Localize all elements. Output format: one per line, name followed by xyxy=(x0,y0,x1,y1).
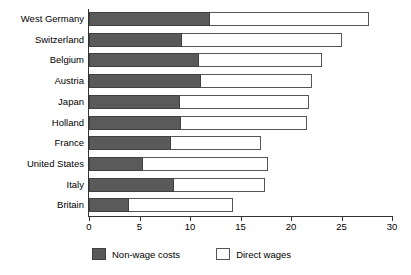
stacked-bar xyxy=(89,53,322,67)
x-tick-label: 15 xyxy=(235,222,246,232)
bar-segment-direct-wages xyxy=(201,74,312,88)
bar-segment-non-wage-costs xyxy=(89,12,210,26)
legend-label: Direct wages xyxy=(236,249,291,260)
bar-segment-direct-wages xyxy=(129,198,233,212)
bar-segment-direct-wages xyxy=(199,53,322,67)
chart-legend: Non-wage costsDirect wages xyxy=(92,248,291,260)
bar-segment-non-wage-costs xyxy=(89,53,199,67)
bar-row: Holland xyxy=(0,113,411,134)
bar-segment-non-wage-costs xyxy=(89,33,182,47)
category-label: Britain xyxy=(57,200,84,210)
category-label: Switzerland xyxy=(35,35,84,45)
bar-segment-direct-wages xyxy=(210,12,369,26)
x-tick-label: 25 xyxy=(336,222,347,232)
stacked-bar xyxy=(89,136,261,150)
bar-segment-direct-wages xyxy=(143,157,268,171)
category-label: Austria xyxy=(54,76,84,86)
bar-row: France xyxy=(0,133,411,154)
bar-row: Japan xyxy=(0,92,411,113)
stacked-bar xyxy=(89,74,312,88)
bar-row: Austria xyxy=(0,71,411,92)
bar-row: Britain xyxy=(0,195,411,216)
stacked-bar xyxy=(89,116,307,130)
bar-segment-non-wage-costs xyxy=(89,74,201,88)
bar-segment-direct-wages xyxy=(174,178,265,192)
bar-row: Italy xyxy=(0,175,411,196)
stacked-bar xyxy=(89,33,342,47)
stacked-bar xyxy=(89,95,309,109)
x-tick-label: 10 xyxy=(185,222,196,232)
category-label: Japan xyxy=(58,97,84,107)
bar-segment-non-wage-costs xyxy=(89,178,174,192)
x-tick-label: 30 xyxy=(387,222,398,232)
bar-chart: West GermanySwitzerlandBelgiumAustriaJap… xyxy=(0,0,411,275)
bar-segment-direct-wages xyxy=(182,33,343,47)
legend-label: Non-wage costs xyxy=(112,249,180,260)
category-label: West Germany xyxy=(21,14,84,24)
legend-item: Direct wages xyxy=(216,248,291,260)
category-label: Belgium xyxy=(50,55,84,65)
category-label: United States xyxy=(27,159,84,169)
bar-row: West Germany xyxy=(0,9,411,30)
stacked-bar xyxy=(89,12,369,26)
bar-segment-direct-wages xyxy=(171,136,261,150)
stacked-bar xyxy=(89,198,233,212)
bar-row: Switzerland xyxy=(0,30,411,51)
x-tick-label: 20 xyxy=(286,222,297,232)
category-label: France xyxy=(54,138,84,148)
bar-segment-non-wage-costs xyxy=(89,116,181,130)
bar-segment-direct-wages xyxy=(180,95,309,109)
x-tick-label: 5 xyxy=(137,222,142,232)
bar-row: United States xyxy=(0,154,411,175)
bar-row: Belgium xyxy=(0,50,411,71)
legend-swatch-direct-wages xyxy=(216,248,230,260)
bar-segment-non-wage-costs xyxy=(89,198,129,212)
category-label: Italy xyxy=(67,180,84,190)
legend-item: Non-wage costs xyxy=(92,248,180,260)
bar-segment-non-wage-costs xyxy=(89,136,171,150)
stacked-bar xyxy=(89,157,268,171)
stacked-bar xyxy=(89,178,265,192)
legend-swatch-non-wage-costs xyxy=(92,248,106,260)
category-label: Holland xyxy=(52,118,84,128)
x-tick-label: 0 xyxy=(86,222,91,232)
bar-segment-direct-wages xyxy=(181,116,307,130)
bar-segment-non-wage-costs xyxy=(89,157,143,171)
bar-segment-non-wage-costs xyxy=(89,95,180,109)
